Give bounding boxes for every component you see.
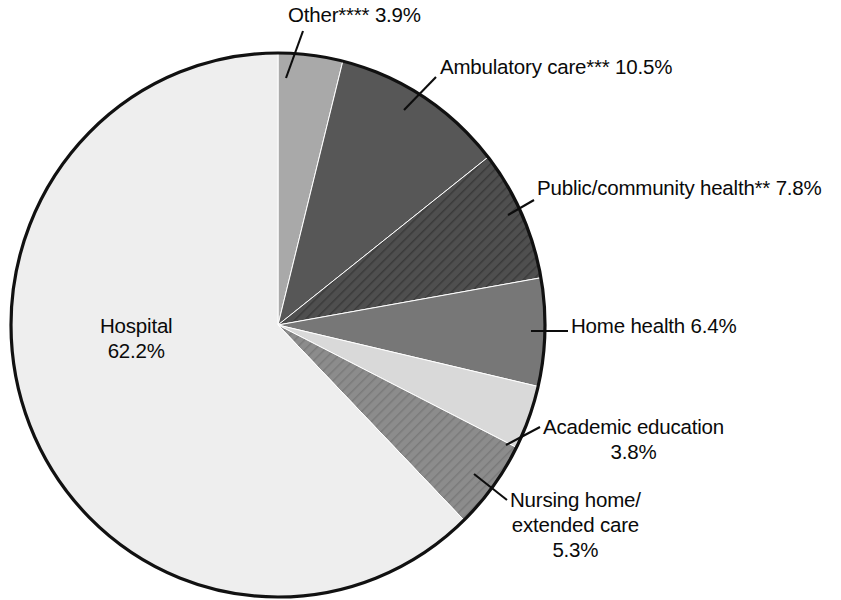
pie-chart-page: Other**** 3.9% Ambulatory care*** 10.5% … [0,0,841,600]
slice-label-academic-education: Academic education 3.8% [543,414,724,464]
pie-slices [11,53,545,597]
pie-chart-svg [0,0,841,600]
slice-label-nursing-home: Nursing home/ extended care 5.3% [510,487,641,562]
slice-label-public-community-health: Public/community health** 7.8% [537,175,822,200]
slice-label-hospital-line2: 62.2% [100,338,172,363]
slice-label-academic-line2: 3.8% [543,439,724,464]
slice-label-ambulatory-text: Ambulatory care*** 10.5% [440,55,672,78]
slice-label-hospital-line1: Hospital [100,313,172,338]
slice-label-academic-line1: Academic education [543,414,724,439]
slice-label-public-text: Public/community health** 7.8% [537,176,822,199]
slice-label-home-health: Home health 6.4% [571,313,736,338]
slice-label-other-text: Other**** 3.9% [288,3,421,26]
slice-label-nursing-line2: extended care [510,512,641,537]
slice-label-home-health-text: Home health 6.4% [571,314,736,337]
slice-label-nursing-line1: Nursing home/ [510,487,641,512]
slice-label-nursing-line3: 5.3% [510,537,641,562]
slice-label-ambulatory: Ambulatory care*** 10.5% [440,54,672,79]
slice-label-hospital: Hospital 62.2% [100,313,172,363]
slice-label-other: Other**** 3.9% [288,2,421,27]
